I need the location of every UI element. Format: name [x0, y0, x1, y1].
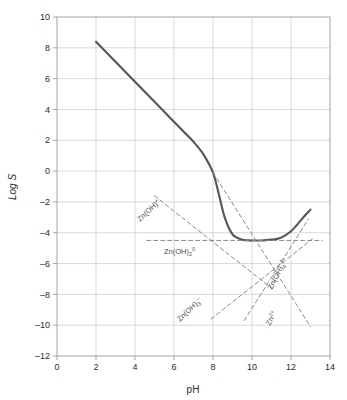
y-tick-label: 8 [45, 43, 50, 53]
y-tick-label: –6 [40, 259, 50, 269]
y-tick-label: –10 [35, 320, 50, 330]
x-tick-label: 2 [93, 362, 98, 372]
x-axis-title: pH [187, 384, 200, 395]
x-tick-label: 10 [247, 362, 257, 372]
y-tick-label: 2 [45, 135, 50, 145]
x-tick-label: 14 [325, 362, 335, 372]
zinc-solubility-chart: 024681012141086420–2–4–6–8–10–12 Zn(OH)+… [0, 0, 347, 400]
y-tick-label: 0 [45, 166, 50, 176]
x-tick-label: 4 [132, 362, 137, 372]
x-tick-label: 12 [286, 362, 296, 372]
y-tick-label: –4 [40, 228, 50, 238]
y-axis-title-group: Log S [7, 174, 18, 200]
chart-background [0, 0, 347, 400]
y-tick-label: 10 [40, 12, 50, 22]
y-axis-title: Log S [7, 174, 18, 200]
x-tick-label: 0 [54, 362, 59, 372]
x-tick-label: 6 [171, 362, 176, 372]
y-tick-label: –2 [40, 197, 50, 207]
y-tick-label: –12 [35, 351, 50, 361]
y-tick-label: 6 [45, 74, 50, 84]
x-tick-label: 8 [210, 362, 215, 372]
y-tick-label: –8 [40, 290, 50, 300]
solubility-diagram-figure: 024681012141086420–2–4–6–8–10–12 Zn(OH)+… [0, 0, 347, 400]
y-tick-label: 4 [45, 105, 50, 115]
